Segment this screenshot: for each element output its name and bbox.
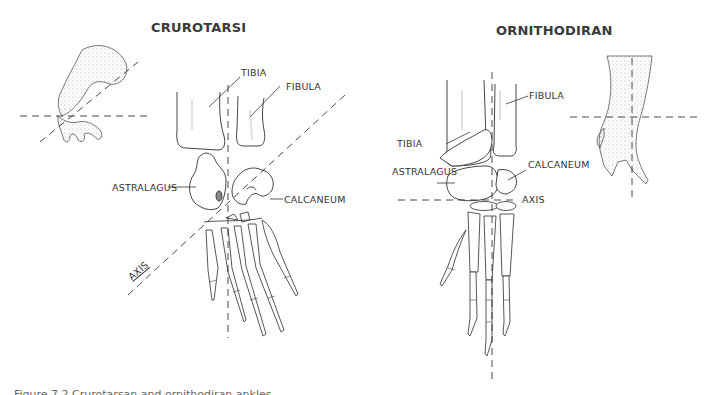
- ornithodiran-foot-sketch: [597, 56, 652, 184]
- figure-caption: Figure 7.2 Crurotarsan and ornithodiran …: [14, 388, 271, 395]
- ornithodiran-label-calcaneum: CALCANEUM: [528, 159, 590, 170]
- crurotarsi-label-astralagus: ASTRALAGUS: [112, 182, 177, 193]
- ankle-diagram-art: [0, 0, 708, 395]
- crurotarsi-tarsals: [204, 212, 262, 222]
- crurotarsi-label-calcaneum: CALCANEUM: [284, 194, 346, 205]
- ornithodiran-label-fibula: FIBULA: [529, 90, 564, 101]
- ornithodiran-leg-bones: [440, 80, 516, 166]
- crurotarsi-label-fibula: FIBULA: [286, 81, 321, 92]
- ornithodiran-tarsals: [470, 202, 516, 211]
- crurotarsi-ankle-bones: [190, 153, 274, 209]
- crurotarsi-axes: [128, 85, 345, 338]
- ornithodiran-label-astralagus: ASTRALAGUS: [392, 166, 457, 177]
- ornithodiran-label-tibia: TIBIA: [397, 138, 422, 149]
- ornithodiran-label-axis: AXIS: [522, 194, 545, 205]
- ornithodiran-digits: [440, 212, 514, 356]
- crurotarsi-foot-sketch: [58, 46, 127, 142]
- crurotarsi-label-tibia: TIBIA: [241, 67, 266, 78]
